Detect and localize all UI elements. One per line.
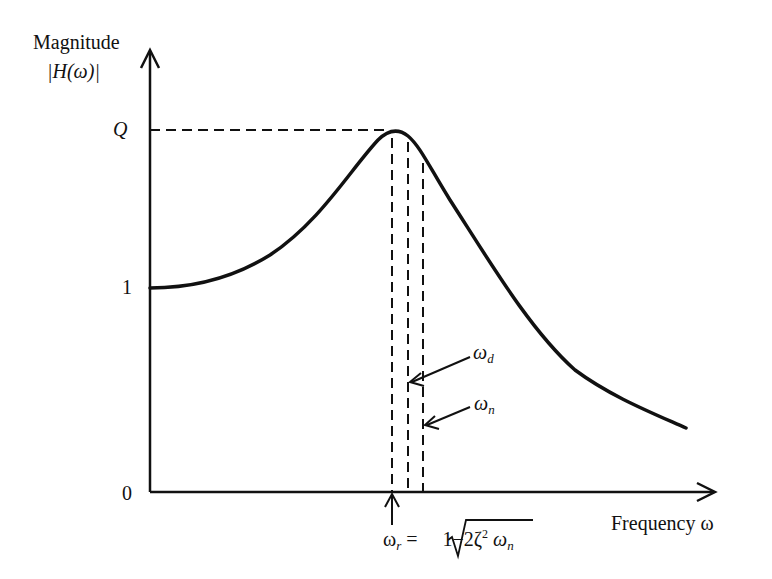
tick-label-q: Q (113, 119, 127, 139)
tick-label-1: 1 (122, 277, 132, 297)
y-axis-label-magnitude: Magnitude (33, 32, 120, 52)
formula-radicand: 1−2ζ (443, 528, 483, 550)
y-axis-label-h-omega: |H(ω)| (47, 61, 100, 81)
formula-lhs: ω (383, 528, 396, 550)
formula-exponent: 2 (482, 527, 488, 541)
omega-n-subscript: n (488, 402, 495, 417)
omega-d-label: ωd (473, 342, 494, 365)
omega-d-subscript: d (487, 351, 494, 366)
formula-rhs: ω (493, 528, 507, 550)
omega-r-formula: ωr = 1−2ζ2 ωn (383, 528, 514, 552)
omega-d-symbol: ω (473, 341, 487, 363)
omega-n-symbol: ω (474, 392, 488, 414)
x-axis-label-frequency: Frequency ω (611, 513, 714, 533)
omega-n-label: ωn (474, 393, 495, 416)
omega-n-pointer (427, 407, 470, 425)
tick-label-0: 0 (122, 483, 132, 503)
formula-rhs-subscript: n (507, 538, 514, 553)
frequency-response-plot (0, 0, 772, 579)
omega-d-pointer (412, 357, 470, 382)
formula-lhs-subscript: r (396, 538, 401, 553)
formula-equals: = (406, 528, 417, 550)
